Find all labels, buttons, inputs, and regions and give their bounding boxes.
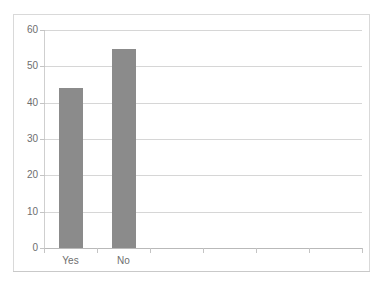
gridline-50 <box>44 66 362 67</box>
x-axis-tick-4 <box>256 248 257 253</box>
y-axis-tick-label-40: 40 <box>8 98 38 108</box>
y-axis-tick-0 <box>40 248 45 249</box>
y-axis-tick-60 <box>40 30 45 31</box>
y-axis-tick-label-20: 20 <box>8 170 38 180</box>
chart-frame-shadow <box>13 271 370 272</box>
gridline-40 <box>44 103 362 104</box>
x-axis-tick-5 <box>309 248 310 253</box>
y-axis-tick-20 <box>40 175 45 176</box>
gridline-60 <box>44 30 362 31</box>
bar-yes[interactable] <box>59 88 83 248</box>
bar-no[interactable] <box>112 49 136 248</box>
x-axis-label-no: No <box>94 255 154 267</box>
x-axis-tick-3 <box>203 248 204 253</box>
y-axis-tick-label-0: 0 <box>8 243 38 253</box>
x-axis-tick-2 <box>150 248 151 253</box>
plot-area <box>44 30 362 248</box>
y-axis-tick-label-30: 30 <box>8 134 38 144</box>
y-axis-labels: 0102030405060 <box>4 30 38 249</box>
x-axis-label-yes: Yes <box>41 255 101 267</box>
gridline-30 <box>44 139 362 140</box>
y-axis-tick-40 <box>40 103 45 104</box>
y-axis-tick-label-10: 10 <box>8 207 38 217</box>
y-axis-tick-label-60: 60 <box>8 25 38 35</box>
x-axis-tick-6 <box>362 248 363 253</box>
cut-off-title-fragment <box>6 0 246 5</box>
gridline-20 <box>44 175 362 176</box>
y-axis-tick-label-50: 50 <box>8 61 38 71</box>
x-axis-tick-1 <box>97 248 98 253</box>
y-axis-tick-10 <box>40 212 45 213</box>
y-axis-tick-50 <box>40 66 45 67</box>
gridline-10 <box>44 212 362 213</box>
y-axis-tick-30 <box>40 139 45 140</box>
